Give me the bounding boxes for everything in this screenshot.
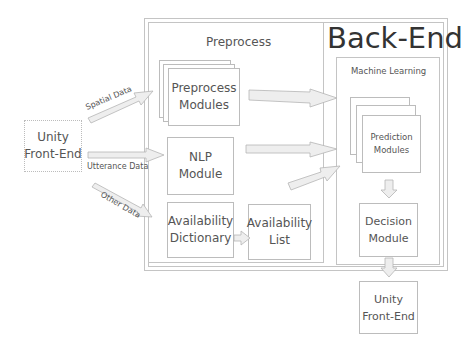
- arrow-nlp-to-ml: [246, 142, 337, 157]
- arrow-prediction-to-decision: [381, 180, 397, 198]
- arrow-preprocess-to-ml: [249, 89, 337, 107]
- arrows-layer: Spatial Data Utterance Data Other Data: [0, 0, 466, 351]
- arrow-utterance-data: [88, 148, 164, 162]
- label-spatial-data: Spatial Data: [84, 84, 133, 112]
- arrow-dict-to-list: [234, 231, 250, 245]
- arrow-list-to-ml: [288, 166, 340, 190]
- arrow-decision-to-unity: [381, 258, 397, 277]
- label-utterance-data: Utterance Data: [87, 162, 148, 171]
